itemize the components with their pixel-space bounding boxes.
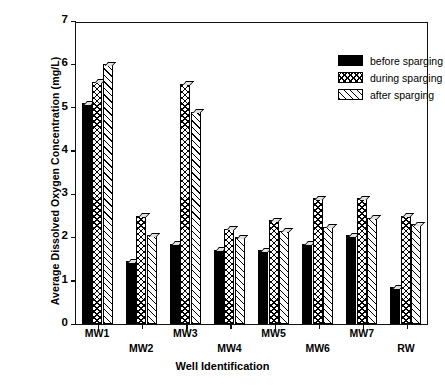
bar-mw2-before <box>126 261 136 324</box>
bar-mw5-after <box>279 231 289 324</box>
bar-group-mw1 <box>82 23 113 324</box>
bar-mw2-during <box>136 216 146 324</box>
bar-top-cap <box>359 196 370 200</box>
y-tick-label: 1 <box>50 273 68 285</box>
y-tick-label: 3 <box>50 186 68 198</box>
x-tick-mark-mw6 <box>319 324 320 329</box>
x-tick-mark-rw <box>407 324 408 329</box>
bar-top-cap <box>326 224 337 228</box>
y-tick-mark <box>71 150 76 151</box>
bar-mw6-after <box>323 227 333 324</box>
x-tick-label-mw3: MW3 <box>173 327 198 339</box>
legend-swatch-before-sparging <box>338 55 363 66</box>
bar-top-cap <box>315 196 326 200</box>
bar-top-cap <box>149 233 160 237</box>
bar-top-cap <box>282 228 293 232</box>
bar-rw-after <box>411 224 421 324</box>
plot-area: 01234567 before sparging during sparging… <box>75 22 428 325</box>
bar-mw1-during <box>92 82 102 324</box>
x-tick-label-mw7: MW7 <box>350 327 375 339</box>
bar-top-cap <box>370 215 381 219</box>
bar-mw6-before <box>302 244 312 324</box>
y-tick-mark <box>71 237 76 238</box>
legend-label-during-sparging: during sparging <box>370 72 442 84</box>
legend-item-before: before sparging <box>338 53 443 68</box>
bar-top-cap <box>227 226 238 230</box>
x-tick-label-mw1: MW1 <box>85 327 110 339</box>
bar-mw3-before <box>170 244 180 324</box>
bar-group-mw5 <box>258 23 289 324</box>
chart-legend: before sparging during sparging after sp… <box>338 53 443 104</box>
bar-rw-before <box>390 287 400 324</box>
y-tick-mark <box>71 107 76 108</box>
bar-top-cap <box>183 81 194 85</box>
x-tick-label-mw6: MW6 <box>305 342 330 354</box>
bar-mw7-during <box>357 198 367 324</box>
bar-mw5-before <box>258 250 268 324</box>
y-tick-label: 2 <box>50 229 68 241</box>
x-tick-mark-mw2 <box>142 324 143 329</box>
bar-top-cap <box>193 109 204 113</box>
bar-mw1-after <box>103 64 113 324</box>
y-tick-mark <box>71 280 76 281</box>
y-tick-label: 5 <box>50 100 68 112</box>
bar-mw2-after <box>147 235 157 324</box>
legend-swatch-during-sparging <box>338 72 363 83</box>
y-tick-label: 7 <box>50 13 68 25</box>
x-tick-label-mw5: MW5 <box>261 327 286 339</box>
bar-mw3-during <box>180 84 190 324</box>
x-tick-label-rw: RW <box>397 342 414 354</box>
x-axis-title: Well Identification <box>0 360 445 372</box>
bar-group-mw4 <box>214 23 245 324</box>
bar-mw3-after <box>191 112 201 324</box>
x-tick-label-mw2: MW2 <box>129 342 154 354</box>
bar-mw1-before <box>82 103 92 324</box>
x-tick-mark-mw4 <box>230 324 231 329</box>
bar-group-mw3 <box>170 23 201 324</box>
bar-mw5-during <box>269 220 279 324</box>
y-tick-label: 6 <box>50 56 68 68</box>
bar-group-mw6 <box>302 23 333 324</box>
bar-top-cap <box>271 218 282 222</box>
bar-group-mw2 <box>126 23 157 324</box>
bar-mw4-before <box>214 250 224 324</box>
bar-mw4-after <box>235 237 245 324</box>
y-tick-label: 4 <box>50 143 68 155</box>
y-tick-mark <box>71 324 76 325</box>
y-tick-mark <box>71 64 76 65</box>
chart-figure: Average Dissolved Oxygen Concentration (… <box>0 0 445 387</box>
legend-item-after: after sparging <box>338 87 443 102</box>
bar-top-cap <box>139 213 150 217</box>
bar-mw7-before <box>346 235 356 324</box>
legend-item-during: during sparging <box>338 70 443 85</box>
bar-top-cap <box>237 235 248 239</box>
legend-label-before-sparging: before sparging <box>370 55 443 67</box>
bar-top-cap <box>403 213 414 217</box>
bar-mw4-during <box>224 229 234 324</box>
bar-rw-during <box>401 216 411 324</box>
legend-swatch-after-sparging <box>338 89 363 100</box>
bar-top-cap <box>414 222 425 226</box>
bar-top-cap <box>105 62 116 66</box>
y-axis-title: Average Dissolved Oxygen Concentration (… <box>49 31 61 331</box>
y-tick-label: 0 <box>50 316 68 328</box>
y-tick-mark <box>71 194 76 195</box>
bar-mw7-after <box>367 218 377 324</box>
y-tick-mark <box>71 21 76 22</box>
legend-label-after-sparging: after sparging <box>370 89 434 101</box>
bar-mw6-during <box>313 198 323 324</box>
x-tick-label-mw4: MW4 <box>217 342 242 354</box>
